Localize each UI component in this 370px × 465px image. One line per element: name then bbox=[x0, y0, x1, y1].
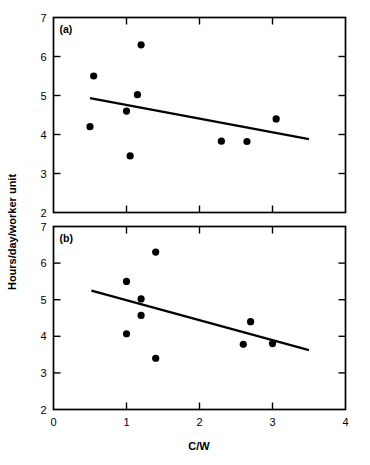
x-tick-label: 3 bbox=[269, 416, 275, 428]
x-tick-label: 0 bbox=[50, 416, 56, 428]
data-point bbox=[269, 340, 276, 347]
data-point bbox=[134, 91, 141, 98]
x-axis-title: C/W bbox=[188, 440, 210, 452]
y-axis-title: Hours/day/worker unit bbox=[6, 174, 18, 290]
data-point bbox=[86, 123, 93, 130]
data-point bbox=[138, 295, 145, 302]
data-point bbox=[123, 108, 130, 115]
data-point bbox=[273, 115, 280, 122]
x-tick-label: 1 bbox=[123, 416, 129, 428]
y-tick-label: 6 bbox=[40, 257, 46, 269]
x-tick-label: 2 bbox=[196, 416, 202, 428]
y-tick-label: 7 bbox=[40, 12, 46, 24]
two-panel-scatter-figure: Hours/day/worker unit 234567(a) 23456701… bbox=[0, 0, 370, 465]
data-point bbox=[240, 341, 247, 348]
data-point bbox=[127, 152, 134, 159]
y-tick-label: 4 bbox=[40, 330, 46, 342]
y-tick-label: 3 bbox=[40, 168, 46, 180]
y-tick-label: 6 bbox=[40, 51, 46, 63]
panel-b: 23456701234(b) bbox=[40, 221, 348, 428]
data-point bbox=[138, 41, 145, 48]
y-tick-label: 4 bbox=[40, 129, 46, 141]
y-tick-label: 2 bbox=[40, 404, 46, 416]
panel-label: (a) bbox=[60, 23, 73, 35]
panel-a: 234567(a) bbox=[40, 12, 345, 219]
data-point bbox=[218, 138, 225, 145]
y-tick-label: 5 bbox=[40, 90, 46, 102]
plot-frame bbox=[54, 227, 346, 410]
x-axis-title-group: C/W bbox=[188, 440, 210, 452]
data-point bbox=[243, 138, 250, 145]
data-point bbox=[247, 318, 254, 325]
data-point bbox=[152, 249, 159, 256]
panel-label: (b) bbox=[60, 232, 73, 244]
y-tick-label: 2 bbox=[40, 207, 46, 219]
x-tick-label: 4 bbox=[342, 416, 348, 428]
data-point bbox=[123, 278, 130, 285]
data-point bbox=[138, 312, 145, 319]
regression-line bbox=[91, 291, 309, 351]
plot-frame bbox=[54, 18, 346, 213]
data-point bbox=[152, 355, 159, 362]
y-tick-label: 5 bbox=[40, 294, 46, 306]
y-axis-title-group: Hours/day/worker unit bbox=[6, 174, 18, 290]
data-point bbox=[123, 330, 130, 337]
y-tick-label: 3 bbox=[40, 367, 46, 379]
y-tick-label: 7 bbox=[40, 221, 46, 233]
data-point bbox=[90, 72, 97, 79]
